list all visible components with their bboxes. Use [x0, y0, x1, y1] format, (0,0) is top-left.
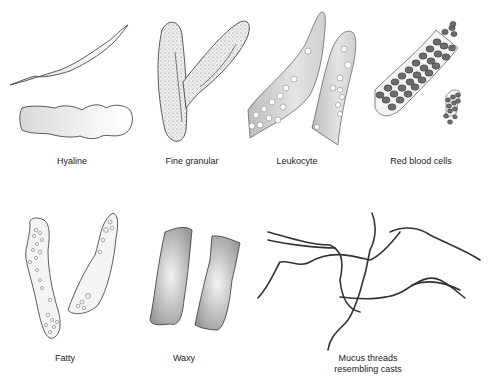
mucus-threads-illustration	[258, 213, 480, 350]
waxy-cast-illustration	[150, 227, 240, 330]
label-fine-granular: Fine granular	[165, 156, 218, 167]
fatty-cast-illustration	[26, 214, 118, 339]
fine-granular-cast-illustration	[158, 21, 249, 141]
rbc-cast-illustration	[375, 21, 461, 124]
casts-diagram	[0, 0, 495, 381]
leukocyte-cast-illustration	[248, 12, 356, 145]
label-mucus-threads-line2: resembling casts	[334, 364, 402, 375]
hyaline-cast-illustration	[10, 25, 132, 139]
label-red-blood-cells: Red blood cells	[390, 156, 452, 167]
label-mucus-threads-line1: Mucus threads	[338, 353, 397, 364]
label-leukocyte: Leukocyte	[276, 156, 317, 167]
label-fatty: Fatty	[55, 353, 75, 364]
label-hyaline: Hyaline	[57, 156, 87, 167]
label-waxy: Waxy	[173, 353, 195, 364]
